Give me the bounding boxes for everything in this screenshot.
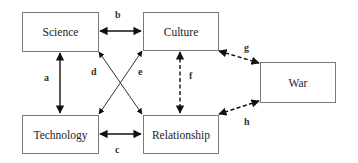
edge-label-e: e (138, 66, 142, 77)
node-technology: Technology (22, 115, 99, 154)
edge-label-h: h (244, 116, 250, 127)
node-culture: Culture (143, 12, 219, 51)
node-science: Science (22, 12, 99, 52)
edge-g (219, 51, 259, 63)
edge-label-a: a (44, 72, 49, 83)
node-culture-label: Culture (164, 26, 199, 38)
edge-label-g: g (244, 42, 249, 53)
node-science-label: Science (43, 26, 79, 38)
edge-label-f: f (189, 70, 192, 81)
edge-label-c: c (115, 144, 119, 155)
edge-label-d: d (91, 66, 97, 77)
edge-label-b: b (115, 9, 121, 20)
node-relationship-label: Relationship (152, 129, 210, 141)
node-technology-label: Technology (33, 129, 87, 141)
node-relationship: Relationship (143, 115, 219, 154)
node-war-label: War (289, 77, 308, 89)
node-war: War (260, 62, 336, 103)
edge-h (219, 101, 259, 114)
